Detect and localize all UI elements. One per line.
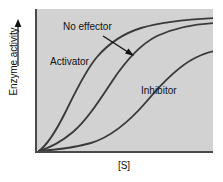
curve-label-inhibitor: Inhibitor	[141, 85, 177, 96]
x-axis-title: [S]	[35, 160, 213, 171]
curve-activator	[39, 18, 213, 151]
curve-label-no-effector: No effector	[63, 21, 112, 32]
up-arrow-icon	[12, 18, 24, 66]
enzyme-kinetics-figure: Enzyme activity No effector Activator In…	[0, 0, 223, 182]
y-axis-label-group: Enzyme activity	[0, 0, 35, 155]
curve-label-activator: Activator	[50, 56, 89, 67]
curve-no-effector	[39, 23, 213, 151]
plot-area: No effector Activator Inhibitor	[35, 9, 213, 153]
